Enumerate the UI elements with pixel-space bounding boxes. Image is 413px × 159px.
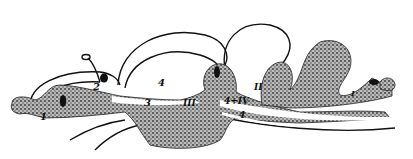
outline-bottom-left [70,120,125,140]
label-4-plus-IV: 4+IV [224,96,250,106]
anatomical-figure: 1 2 3 4 III II 4+IV 4 I [0,0,413,159]
spot-right [369,79,379,85]
stalk-tip [82,55,90,60]
spot-left [60,95,66,107]
spot-upper [100,74,108,83]
label-3: 3 [144,97,151,108]
label-1: 1 [40,111,47,122]
label-4-lower: 4 [239,110,245,120]
label-4-upper: 4 [158,77,165,88]
hindbrain-folds [261,41,392,108]
label-III: III [182,98,196,108]
outline-bottom-left-2 [95,125,140,150]
label-I: I [350,88,355,98]
label-II: II [253,82,263,92]
caudal-bulge [380,78,395,91]
stalk [88,58,100,82]
label-2: 2 [92,81,100,92]
spot-mid [214,66,220,78]
